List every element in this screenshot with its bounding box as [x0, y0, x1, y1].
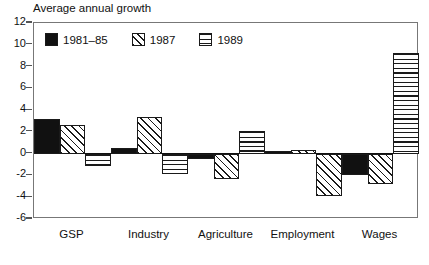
y-axis-tick — [26, 196, 32, 197]
bar-employment-1981-85 — [265, 151, 291, 153]
bar-industry-1987 — [137, 117, 163, 153]
y-axis-label: 2 — [0, 125, 26, 136]
bar-employment-1987 — [291, 150, 317, 154]
y-axis-tick — [26, 87, 32, 88]
y-axis-label: 4 — [0, 103, 26, 114]
y-axis-label: -2 — [0, 168, 26, 179]
legend-label: 1989 — [217, 34, 243, 46]
bar-industry-1989 — [162, 154, 188, 175]
bar-agriculture-1987 — [214, 154, 240, 180]
plot-area — [33, 22, 418, 218]
y-axis-label: 6 — [0, 81, 26, 92]
y-axis-label: 12 — [0, 16, 26, 27]
y-axis-label: -6 — [0, 212, 26, 223]
legend-item-1989[interactable]: 1989 — [199, 33, 243, 46]
x-axis-label-gsp: GSP — [33, 228, 110, 240]
x-axis-label-employment: Employment — [264, 228, 341, 240]
chart-container: Average annual growth 1981–8519871989 12… — [0, 0, 429, 265]
legend-label: 1987 — [150, 34, 176, 46]
y-axis-label: -4 — [0, 190, 26, 201]
bar-employment-1989 — [316, 154, 342, 196]
legend-item-1981-85[interactable]: 1981–85 — [45, 33, 108, 46]
bar-agriculture-1981-85 — [188, 154, 214, 159]
bar-wages-1989 — [393, 53, 419, 153]
bar-industry-1981-85 — [111, 148, 137, 154]
y-axis-tick — [26, 109, 32, 110]
y-axis-label: 0 — [0, 147, 26, 158]
legend-swatch-icon — [132, 33, 145, 46]
bar-gsp-1987 — [60, 125, 86, 154]
y-axis-label: 8 — [0, 60, 26, 71]
y-axis-tick — [26, 65, 32, 66]
y-axis-tick — [26, 174, 32, 175]
legend-item-1987[interactable]: 1987 — [132, 33, 176, 46]
legend-swatch-icon — [199, 33, 212, 46]
bar-gsp-1981-85 — [34, 119, 60, 153]
y-axis-tick — [26, 43, 32, 44]
x-axis-label-wages: Wages — [341, 228, 418, 240]
legend-label: 1981–85 — [63, 34, 108, 46]
bar-wages-1987 — [368, 154, 394, 184]
x-axis-label-agriculture: Agriculture — [187, 228, 264, 240]
y-axis-tick — [26, 217, 32, 218]
chart-legend: 1981–8519871989 — [45, 33, 267, 46]
x-axis-label-industry: Industry — [110, 228, 187, 240]
y-axis-label: 10 — [0, 38, 26, 49]
y-axis-tick — [26, 130, 32, 131]
bar-agriculture-1989 — [239, 131, 265, 154]
bar-gsp-1989 — [85, 154, 111, 166]
y-axis-tick — [26, 152, 32, 153]
bar-wages-1981-85 — [342, 154, 368, 175]
plot-inner — [34, 23, 417, 217]
legend-swatch-icon — [45, 33, 58, 46]
y-axis-tick — [26, 21, 32, 22]
chart-title: Average annual growth — [33, 2, 151, 14]
